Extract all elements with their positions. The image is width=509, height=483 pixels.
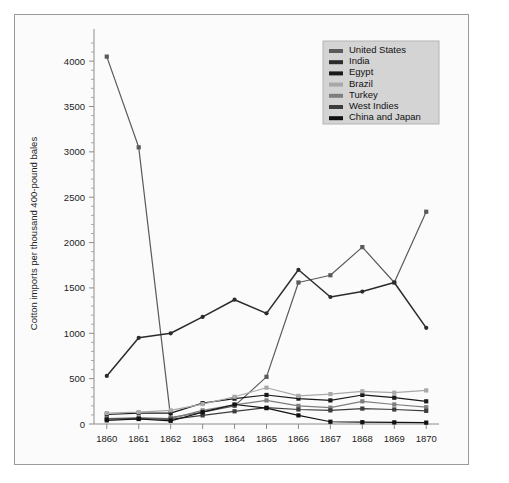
legend-label: United States <box>349 44 406 55</box>
legend-label: Egypt <box>349 66 374 77</box>
legend-label: Turkey <box>349 89 378 100</box>
series-egypt <box>105 393 429 417</box>
data-point <box>264 311 268 315</box>
data-point <box>360 420 364 424</box>
data-point <box>264 375 268 379</box>
data-point <box>392 420 396 424</box>
data-point <box>232 395 236 399</box>
legend-label: Brazil <box>349 78 373 89</box>
data-point <box>105 411 109 415</box>
data-point <box>392 402 396 406</box>
data-point <box>105 55 109 59</box>
data-point <box>424 326 428 330</box>
y-tick-label: 2000 <box>64 237 85 248</box>
data-point <box>424 399 428 403</box>
y-tick-label: 2500 <box>64 192 85 203</box>
data-point <box>232 402 236 406</box>
data-point <box>201 402 205 406</box>
legend-swatch <box>329 105 343 109</box>
legend-label: India <box>349 55 370 66</box>
data-point <box>296 394 300 398</box>
data-point <box>360 406 364 410</box>
data-point <box>201 410 205 414</box>
data-point <box>296 407 300 411</box>
x-tick-label: 1864 <box>224 433 245 444</box>
data-point <box>105 418 109 422</box>
x-tick-label: 1870 <box>416 433 437 444</box>
y-tick-label: 500 <box>69 373 85 384</box>
data-point <box>328 420 332 424</box>
legend-swatch <box>329 116 343 120</box>
data-point <box>137 417 141 421</box>
data-point <box>264 406 268 410</box>
data-point <box>392 280 396 284</box>
data-point <box>296 404 300 408</box>
x-axis: 1860186118621863186418651866186718681869… <box>94 424 439 444</box>
y-tick-label: 1000 <box>64 328 85 339</box>
cotton-imports-line-chart: 05001000150020002500300035004000 1860186… <box>15 15 470 466</box>
data-point <box>328 273 332 277</box>
x-tick-label: 1860 <box>96 433 117 444</box>
legend-swatch <box>329 71 343 75</box>
y-tick-label: 1500 <box>64 282 85 293</box>
data-point <box>360 245 364 249</box>
data-point <box>264 398 268 402</box>
x-tick-label: 1868 <box>352 433 373 444</box>
legend-label: China and Japan <box>349 111 421 122</box>
data-point <box>232 298 236 302</box>
data-point <box>328 408 332 412</box>
y-axis: 05001000150020002500300035004000 <box>64 29 94 430</box>
data-point <box>264 393 268 397</box>
data-point <box>169 419 173 423</box>
data-point <box>360 399 364 403</box>
data-point <box>137 410 141 414</box>
y-tick-label: 4000 <box>64 56 85 67</box>
data-point <box>264 386 268 390</box>
data-point <box>392 391 396 395</box>
data-point <box>424 409 428 413</box>
data-point <box>424 388 428 392</box>
x-tick-label: 1865 <box>256 433 277 444</box>
chart-frame: 05001000150020002500300035004000 1860186… <box>14 14 469 465</box>
legend-label: West Indies <box>349 100 399 111</box>
x-tick-label: 1862 <box>160 433 181 444</box>
x-tick-label: 1861 <box>128 433 149 444</box>
y-tick-label: 0 <box>80 419 85 430</box>
data-point <box>424 421 428 425</box>
data-point <box>169 331 173 335</box>
data-point <box>296 280 300 284</box>
chart-legend: United StatesIndiaEgyptBrazilTurkeyWest … <box>323 41 439 124</box>
data-point <box>328 398 332 402</box>
series-india <box>105 268 429 378</box>
x-tick-label: 1863 <box>192 433 213 444</box>
data-point <box>360 389 364 393</box>
data-point <box>232 409 236 413</box>
data-point <box>328 295 332 299</box>
legend-swatch <box>329 49 343 53</box>
data-point <box>169 408 173 412</box>
data-point <box>424 405 428 409</box>
chart-plot-area: 05001000150020002500300035004000 1860186… <box>15 15 468 464</box>
x-tick-label: 1869 <box>384 433 405 444</box>
data-point <box>360 289 364 293</box>
data-point <box>360 393 364 397</box>
y-axis-title: Cotton imports per thousand 400-pound ba… <box>28 137 39 331</box>
data-point <box>392 396 396 400</box>
x-tick-label: 1866 <box>288 433 309 444</box>
data-point <box>137 145 141 149</box>
data-point <box>105 374 109 378</box>
legend-swatch <box>329 83 343 87</box>
data-point <box>296 268 300 272</box>
x-tick-label: 1867 <box>320 433 341 444</box>
data-point <box>296 413 300 417</box>
data-point <box>328 392 332 396</box>
data-point <box>137 336 141 340</box>
legend-swatch <box>329 60 343 64</box>
legend-swatch <box>329 94 343 98</box>
data-point <box>424 210 428 214</box>
y-tick-label: 3000 <box>64 146 85 157</box>
y-tick-label: 3500 <box>64 101 85 112</box>
data-point <box>392 407 396 411</box>
data-point <box>201 315 205 319</box>
